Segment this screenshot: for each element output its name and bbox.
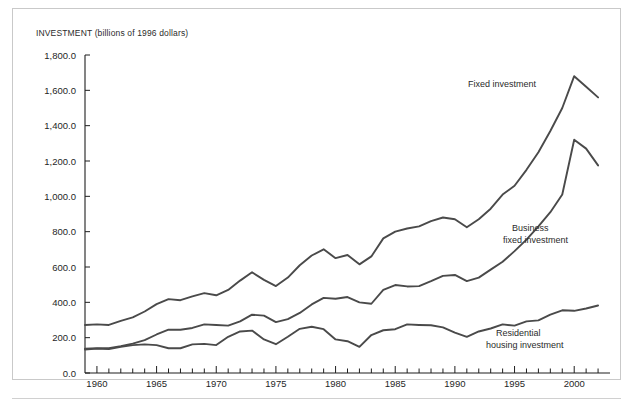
y-axis: 0.0200.0400.0600.0800.01,000.01,200.01,4…: [44, 50, 90, 379]
y-tick-label: 600.0: [52, 262, 76, 273]
y-tick-label: 400.0: [52, 297, 76, 308]
series-line: [85, 76, 598, 325]
y-tick-label: 1,400.0: [44, 120, 76, 131]
series-label: Fixed investment: [468, 79, 537, 89]
series-label: fixed investment: [503, 235, 569, 245]
series-label: Residential: [496, 328, 541, 338]
investment-line-chart: 0.0200.0400.0600.0800.01,000.01,200.01,4…: [0, 0, 635, 418]
y-tick-label: 1,800.0: [44, 50, 76, 61]
y-tick-label: 0.0: [63, 368, 76, 379]
y-tick-label: 800.0: [52, 226, 76, 237]
x-tick-label: 1970: [206, 378, 227, 389]
y-tick-label: 1,200.0: [44, 156, 76, 167]
x-axis: 196019651970197519801985199019952000: [85, 366, 610, 389]
series-label: Business: [512, 223, 549, 233]
x-tick-label: 1995: [504, 378, 525, 389]
series-label: housing investment: [486, 340, 564, 350]
x-tick-label: 1975: [265, 378, 286, 389]
x-tick-label: 2000: [564, 378, 585, 389]
x-tick-label: 1980: [325, 378, 346, 389]
x-tick-label: 1985: [385, 378, 406, 389]
y-tick-label: 1,000.0: [44, 191, 76, 202]
data-series-group: [85, 76, 598, 349]
y-tick-label: 200.0: [52, 332, 76, 343]
x-tick-label: 1960: [86, 378, 107, 389]
x-tick-label: 1990: [444, 378, 465, 389]
y-tick-label: 1,600.0: [44, 85, 76, 96]
x-tick-label: 1965: [146, 378, 167, 389]
